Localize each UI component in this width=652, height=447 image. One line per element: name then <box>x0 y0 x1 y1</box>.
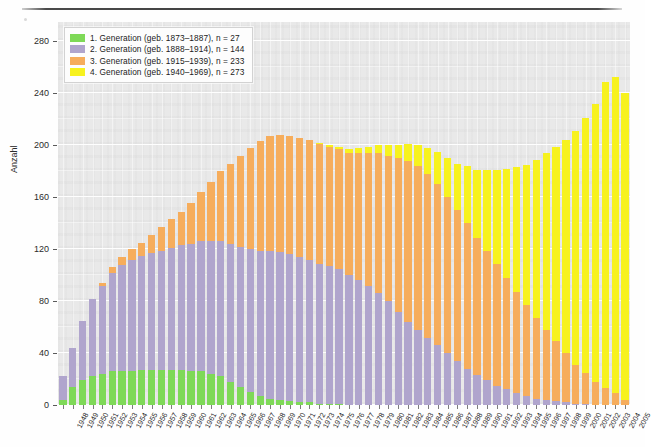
bar-1985 <box>424 148 431 405</box>
x-tick-mark <box>260 405 261 409</box>
x-tick-mark <box>201 405 202 409</box>
y-tick-mark <box>53 41 57 42</box>
bar-segment-gen4 <box>404 144 411 161</box>
bar-1974 <box>316 143 323 405</box>
bar-segment-gen2 <box>345 275 352 405</box>
bar-1996 <box>533 160 540 405</box>
x-tick-mark <box>497 405 498 409</box>
bar-segment-gen3 <box>513 292 520 393</box>
bar-segment-gen2 <box>365 286 372 405</box>
y-tick-label: 200 <box>3 141 49 150</box>
bar-1967 <box>247 148 254 405</box>
bar-segment-gen4 <box>414 145 421 166</box>
bar-segment-gen3 <box>493 264 500 386</box>
bar-segment-gen3 <box>148 235 155 253</box>
bar-segment-gen2 <box>128 260 135 372</box>
bar-segment-gen3 <box>316 144 323 263</box>
bar-1993 <box>503 169 510 405</box>
bar-segment-gen2 <box>424 338 431 406</box>
bar-1977 <box>345 149 352 405</box>
bar-segment-gen3 <box>454 210 461 361</box>
bar-1968 <box>257 141 264 405</box>
x-tick-mark <box>339 405 340 409</box>
bar-segment-gen3 <box>562 353 569 402</box>
bar-segment-gen3 <box>572 365 579 404</box>
bar-segment-gen2 <box>286 254 293 401</box>
bar-1949 <box>69 348 76 405</box>
y-tick-label: 240 <box>3 89 49 98</box>
y-tick-mark <box>53 353 57 354</box>
legend-entry-gen4: 4. Generation (geb. 1940–1969), n = 273 <box>70 67 245 79</box>
x-tick-mark <box>408 405 409 409</box>
bar-segment-gen2 <box>335 269 342 404</box>
x-tick-mark <box>605 405 606 409</box>
bar-segment-gen2 <box>266 251 273 399</box>
bar-segment-gen3 <box>464 223 471 368</box>
bar-1989 <box>464 166 471 405</box>
bar-segment-gen3 <box>296 138 303 257</box>
x-tick-mark <box>211 405 212 409</box>
bar-segment-gen3 <box>612 393 619 405</box>
bar-segment-gen2 <box>138 256 145 370</box>
bar-segment-gen3 <box>187 203 194 245</box>
bar-1950 <box>79 321 86 405</box>
bar-segment-gen4 <box>572 131 579 365</box>
legend-entry-gen3: 3. Generation (geb. 1915–1939), n = 233 <box>70 55 245 67</box>
bar-1990 <box>473 170 480 405</box>
bar-segment-gen2 <box>217 241 224 376</box>
x-tick-mark <box>457 405 458 409</box>
bar-segment-gen2 <box>247 249 254 392</box>
bar-segment-gen2 <box>523 396 530 405</box>
bar-segment-gen2 <box>355 280 362 405</box>
bar-segment-gen4 <box>503 169 510 278</box>
bar-segment-gen2 <box>513 393 520 405</box>
bar-1948 <box>59 376 66 405</box>
x-tick-mark <box>576 405 577 409</box>
bar-segment-gen3 <box>197 192 204 241</box>
bar-1981 <box>385 145 392 405</box>
x-tick-mark <box>102 405 103 409</box>
bar-1960 <box>178 212 185 405</box>
bar-1953 <box>109 267 116 405</box>
x-tick-mark <box>171 405 172 409</box>
bar-segment-gen2 <box>168 248 175 370</box>
bar-segment-gen3 <box>276 135 283 252</box>
bar-segment-gen1 <box>168 370 175 405</box>
scan-artifact <box>24 18 27 21</box>
bar-segment-gen1 <box>118 371 125 405</box>
x-tick-mark <box>112 405 113 409</box>
bar-segment-gen1 <box>227 382 234 405</box>
bar-segment-gen3 <box>178 212 185 246</box>
bar-segment-gen3 <box>335 149 342 268</box>
x-tick-mark <box>388 405 389 409</box>
bar-segment-gen4 <box>543 153 550 330</box>
bar-1970 <box>276 135 283 405</box>
x-tick-mark <box>467 405 468 409</box>
x-tick-mark <box>319 405 320 409</box>
x-tick-mark <box>595 405 596 409</box>
legend-swatch-icon <box>70 45 85 53</box>
bar-segment-gen2 <box>316 264 323 404</box>
bar-segment-gen3 <box>414 166 421 330</box>
bar-1972 <box>296 138 303 405</box>
x-tick-mark <box>152 405 153 409</box>
bar-segment-gen2 <box>454 361 461 405</box>
x-tick-mark <box>122 405 123 409</box>
bar-segment-gen1 <box>207 374 214 405</box>
bar-segment-gen4 <box>385 145 392 155</box>
bar-segment-gen3 <box>168 219 175 248</box>
bar-segment-gen4 <box>395 145 402 158</box>
bar-segment-gen3 <box>266 136 273 250</box>
bar-segment-gen3 <box>138 243 145 256</box>
x-tick-mark <box>181 405 182 409</box>
x-tick-mark <box>428 405 429 409</box>
bar-segment-gen4 <box>582 118 589 372</box>
bar-1997 <box>543 153 550 405</box>
y-tick-mark <box>53 93 57 94</box>
x-tick-mark <box>73 405 74 409</box>
x-tick-mark <box>615 405 616 409</box>
bar-segment-gen4 <box>473 170 480 238</box>
bar-segment-gen2 <box>89 299 96 377</box>
y-tick-label: 0 <box>3 401 49 410</box>
bar-segment-gen3 <box>582 373 589 404</box>
